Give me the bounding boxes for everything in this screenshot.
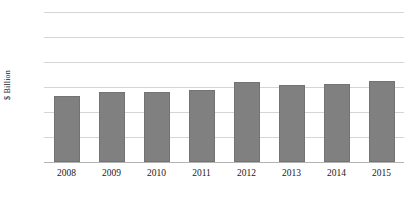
plot-area: 302520151050 200820092010201120122013201… xyxy=(44,12,404,162)
bar-slot xyxy=(179,12,224,162)
y-axis-title-label: $ Billion xyxy=(4,70,12,100)
bar[interactable] xyxy=(369,81,395,163)
bar[interactable] xyxy=(324,84,350,162)
x-axis-tick-label: 2015 xyxy=(359,169,404,179)
x-axis-tick-label: 2009 xyxy=(89,169,134,179)
bar-slot xyxy=(224,12,269,162)
bar[interactable] xyxy=(144,92,170,162)
x-axis-tick-label: 2011 xyxy=(179,169,224,179)
bar-slot xyxy=(359,12,404,162)
bar[interactable] xyxy=(99,92,125,162)
x-axis-tick-label: 2012 xyxy=(224,169,269,179)
bar-slot xyxy=(134,12,179,162)
bar[interactable] xyxy=(54,96,80,163)
bar-slot xyxy=(44,12,89,162)
bar-slot xyxy=(314,12,359,162)
bar[interactable] xyxy=(279,85,305,162)
x-axis-tick-label: 2010 xyxy=(134,169,179,179)
bar-slot xyxy=(89,12,134,162)
y-axis-title: $ Billion xyxy=(0,0,16,170)
bar[interactable] xyxy=(189,90,215,162)
x-axis-tick-label: 2013 xyxy=(269,169,314,179)
x-axis-tick-label: 2008 xyxy=(44,169,89,179)
x-axis-tick-label: 2014 xyxy=(314,169,359,179)
bar-slot xyxy=(269,12,314,162)
bar[interactable] xyxy=(234,82,260,163)
x-axis-line xyxy=(44,162,404,163)
bar-series xyxy=(44,12,404,162)
bar-chart: $ Billion 302520151050 20082009201020112… xyxy=(0,0,410,209)
